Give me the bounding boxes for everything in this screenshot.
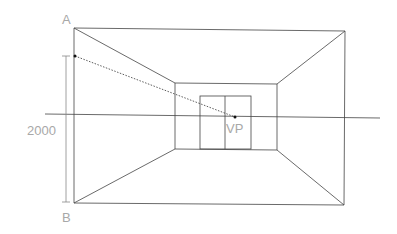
dimension-label: 2000 [27, 124, 56, 137]
sight-line-to-vp [75, 56, 235, 117]
ceiling-left-edge [74, 28, 175, 83]
label-a: A [62, 13, 71, 26]
floor-right-edge [277, 150, 344, 205]
height-point [74, 55, 77, 58]
perspective-drawing [0, 0, 397, 234]
vp-label: VP [226, 122, 243, 135]
label-b: B [62, 211, 71, 224]
vanishing-point-marker [234, 116, 237, 119]
outer-wall-frame [74, 28, 345, 205]
ceiling-right-edge [277, 31, 345, 84]
floor-left-edge [74, 149, 175, 203]
horizon-line [45, 114, 380, 118]
